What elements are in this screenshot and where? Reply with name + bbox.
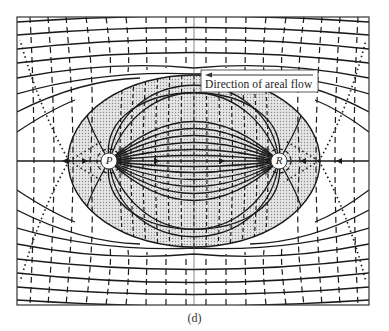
well-r-label: R — [272, 154, 286, 166]
areal-flow-label: Direction of areal flow — [205, 78, 312, 90]
flow-net-diagram — [0, 0, 389, 331]
well-p-label: P — [102, 154, 116, 166]
panel-caption: (d) — [0, 311, 389, 326]
